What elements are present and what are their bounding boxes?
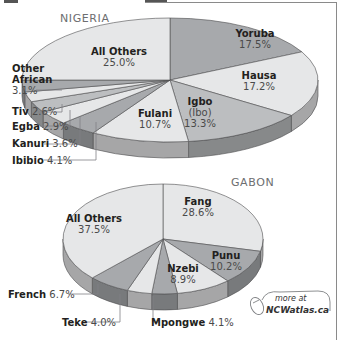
- label-mpongwe: Mpongwe 4.1%: [151, 317, 234, 328]
- label-hausa: Hausa17.2%: [234, 70, 284, 92]
- badge-site-link[interactable]: NCWatlas.ca: [266, 305, 329, 315]
- gabon-title: GABON: [231, 176, 274, 189]
- label-kanuri: Kanuri 3.6%: [12, 138, 78, 149]
- label-teke: Teke 4.0%: [62, 317, 116, 328]
- label-ibibio: Ibibio 4.1%: [12, 155, 72, 166]
- label-french: French 6.7%: [8, 289, 75, 300]
- label-nzebi: Nzebi8.9%: [165, 263, 201, 285]
- label-gabon-all-others: All Others37.5%: [62, 213, 126, 235]
- label-egba: Egba 2.9%: [12, 121, 69, 132]
- label-fulani: Fulani10.7%: [134, 108, 176, 130]
- gabon-pie-chart: [63, 184, 263, 310]
- label-fang: Fang28.6%: [176, 196, 220, 218]
- label-punu: Punu10.2%: [206, 250, 246, 272]
- label-nigeria-all-others: All Others25.0%: [84, 46, 154, 68]
- label-other-african: OtherAfrican3.1%: [12, 63, 52, 96]
- label-tiv: Tiv 2.6%: [12, 106, 57, 117]
- badge-more-at: more at: [275, 294, 306, 303]
- nigeria-title: NIGERIA: [60, 12, 110, 25]
- pie-side-mpongwe: [152, 293, 178, 310]
- label-yoruba: Yoruba17.5%: [230, 28, 280, 50]
- label-igbo: Igbo(Ibo)13.3%: [182, 96, 218, 129]
